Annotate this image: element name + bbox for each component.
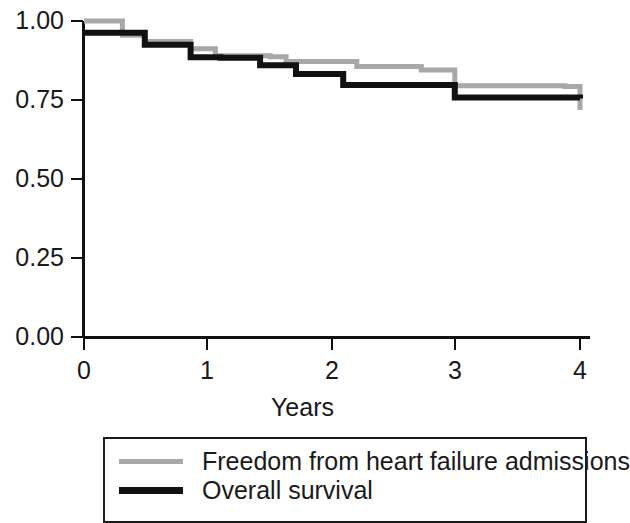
series-line-overall-survival — [84, 33, 580, 99]
plot-area — [0, 0, 605, 400]
y-axis-ticks — [71, 21, 83, 337]
legend-item-overall-survival: Overall survival — [105, 475, 585, 505]
legend-label-freedom-from-heart-failure-admissions: Freedom from heart failure admissions — [202, 446, 630, 476]
chart-legend: Freedom from heart failure admissions Ov… — [103, 437, 587, 523]
legend-swatch-black-line-icon — [119, 487, 183, 494]
x-axis-title: Years — [0, 393, 605, 421]
legend-swatch-gray-line-icon — [119, 459, 183, 464]
legend-label-overall-survival: Overall survival — [202, 475, 373, 505]
legend-item-freedom-from-heart-failure-admissions: Freedom from heart failure admissions — [105, 446, 585, 476]
